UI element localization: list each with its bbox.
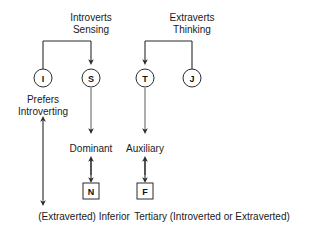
connector-lines (0, 0, 314, 233)
circle-node-j[interactable]: J (183, 69, 202, 88)
box-node-f[interactable]: F (137, 183, 154, 200)
left-bracket (43, 41, 91, 69)
circle-node-t[interactable]: T (136, 69, 155, 88)
diagram-canvas: Introverts Sensing Extraverts Thinking P… (0, 0, 314, 233)
box-node-n[interactable]: N (83, 183, 100, 200)
circle-node-s[interactable]: S (82, 69, 101, 88)
circle-node-i[interactable]: I (34, 69, 53, 88)
right-bracket (145, 41, 192, 69)
